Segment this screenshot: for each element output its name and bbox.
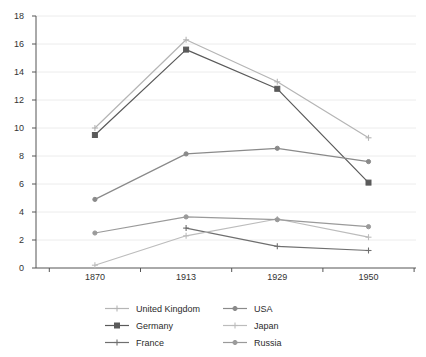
x-axis: 1870191319291950 (36, 272, 416, 286)
legend-label: USA (254, 304, 273, 314)
series-marker-3-3 (366, 160, 370, 164)
series-marker-1-2 (275, 86, 280, 91)
series-line-0 (95, 40, 369, 138)
y-tick-label: 4 (19, 208, 24, 217)
y-tick-label: 10 (14, 124, 24, 133)
series-marker-3-2 (275, 146, 279, 150)
y-tick-label: 12 (14, 96, 24, 105)
legend-swatch-icon (104, 320, 130, 331)
y-axis: 024681012141618 (0, 16, 30, 268)
line-chart: 024681012141618 1870191319291950 United … (0, 0, 426, 357)
series-marker-3-0 (93, 197, 97, 201)
series-line-5 (95, 217, 369, 233)
y-tick-label: 8 (19, 152, 24, 161)
legend-label: France (136, 338, 164, 348)
legend-swatch-icon (222, 303, 248, 314)
x-tick-label: 1913 (176, 272, 196, 282)
legend-label: Japan (254, 321, 279, 331)
legend-label: Germany (136, 321, 173, 331)
plot-svg (36, 16, 416, 268)
legend-item[interactable]: France (104, 334, 222, 351)
series-marker-3-1 (184, 152, 188, 156)
series-line-1 (95, 50, 369, 183)
y-tick-label: 6 (19, 180, 24, 189)
chart-legend: United KingdomUSAGermanyJapanFranceRussi… (104, 300, 334, 352)
y-tick-label: 2 (19, 236, 24, 245)
legend-swatch-icon (104, 303, 130, 314)
legend-item[interactable]: USA (222, 300, 334, 317)
plot-area (36, 16, 416, 268)
series-marker-5-2 (275, 218, 279, 222)
legend-item[interactable]: Japan (222, 317, 334, 334)
y-tick-label: 18 (14, 12, 24, 21)
series-france (183, 225, 371, 253)
legend-label: United Kingdom (136, 304, 200, 314)
legend-marker (233, 306, 237, 310)
x-tick-label: 1929 (267, 272, 287, 282)
series-usa (93, 146, 371, 201)
series-united-kingdom (92, 37, 372, 141)
series-marker-5-1 (184, 215, 188, 219)
series-germany (92, 47, 371, 185)
series-marker-1-3 (366, 180, 371, 185)
y-tick-label: 16 (14, 40, 24, 49)
x-tick-label: 1870 (85, 272, 105, 282)
x-tick-label: 1950 (358, 272, 378, 282)
legend-swatch-icon (222, 337, 248, 348)
legend-label: Russia (254, 338, 282, 348)
series-marker-1-1 (184, 47, 189, 52)
legend-item[interactable]: Russia (222, 334, 334, 351)
y-tick-label: 14 (14, 68, 24, 77)
series-marker-5-0 (93, 231, 97, 235)
legend-swatch-icon (222, 320, 248, 331)
legend-item[interactable]: United Kingdom (104, 300, 222, 317)
legend-item[interactable]: Germany (104, 317, 222, 334)
series-marker-5-3 (366, 225, 370, 229)
legend-marker (115, 323, 120, 328)
series-marker-1-0 (92, 133, 97, 138)
y-tick-label: 0 (19, 264, 24, 273)
legend-swatch-icon (104, 337, 130, 348)
legend-marker (233, 340, 237, 344)
series-russia (93, 215, 371, 235)
